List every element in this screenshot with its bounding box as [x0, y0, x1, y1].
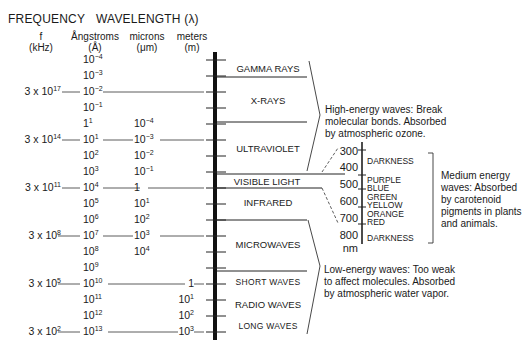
meter-value: 1 [188, 277, 194, 289]
band-x-rays: X-RAYS [228, 95, 308, 106]
micron-value: 10−4 [134, 117, 154, 129]
band-short-waves: SHORT WAVES [228, 277, 308, 287]
meter-unit: (m) [172, 42, 212, 53]
color-red: RED [367, 218, 385, 227]
frequency-value: 3 x 105 [28, 277, 61, 289]
band-radio-waves: RADIO WAVES [228, 299, 308, 310]
frequency-value: 3 x 102 [28, 325, 61, 337]
note-low-energy: Low-energy waves: Too weak to affect mol… [324, 264, 455, 300]
nm-tick-500: 500 [334, 178, 358, 190]
nm-tick-400: 400 [334, 161, 358, 173]
angstrom-value: 104 [83, 181, 99, 193]
angstrom-column-header: Ångstroms (Å) [70, 31, 120, 53]
frequency-value: 3 x 108 [28, 229, 61, 241]
angstrom-value: 109 [83, 261, 99, 273]
note-high-energy: High-energy waves: Break molecular bonds… [325, 104, 446, 140]
angstrom-value: 1010 [83, 277, 102, 289]
nm-unit: nm [334, 242, 358, 254]
angstrom-value: 106 [83, 213, 99, 225]
micron-value: 10−1 [134, 165, 154, 177]
color-darkness-bottom: DARKNESS [367, 234, 414, 243]
frequency-value: 3 x 1017 [25, 85, 61, 97]
angstrom-value: 103 [83, 165, 99, 177]
micron-value: 1 [134, 181, 140, 193]
freq-symbol: f [26, 31, 56, 42]
medium-energy-bracket [428, 153, 433, 243]
micron-label: microns [124, 31, 170, 42]
angstrom-value: 1013 [83, 325, 102, 337]
high-energy-bracket [307, 61, 320, 171]
band-visible-light: VISIBLE LIGHT [222, 176, 312, 187]
micron-value: 102 [134, 213, 150, 225]
frequency-value: 3 x 1011 [25, 181, 61, 193]
angstrom-value: 11 [83, 117, 93, 129]
band-microwaves: MICROWAVES [228, 239, 308, 250]
nm-tick-300: 300 [334, 145, 358, 157]
low-energy-bracket [307, 220, 320, 334]
angstrom-value: 10−3 [83, 69, 103, 81]
band-infrared: INFRARED [228, 197, 308, 208]
frequency-value: 3 x 1014 [25, 133, 61, 145]
angstrom-value: 1011 [83, 293, 102, 305]
micron-column-header: microns (μm) [124, 31, 170, 53]
micron-value: 10−2 [134, 149, 154, 161]
micron-value: 103 [134, 229, 150, 241]
meter-column-header: meters (m) [172, 31, 212, 53]
meter-value: 102 [178, 309, 194, 321]
micron-value: 104 [134, 245, 150, 257]
note-medium-energy: Medium energy waves: Absorbed by caroten… [441, 170, 522, 230]
band-ultraviolet: ULTRAVIOLET [228, 143, 308, 154]
angstrom-value: 108 [83, 245, 99, 257]
angstrom-value: 102 [83, 149, 99, 161]
meter-value: 101 [178, 293, 194, 305]
meter-value: 103 [178, 325, 194, 337]
angstrom-value: 105 [83, 197, 99, 209]
freq-column-header: f (kHz) [26, 31, 56, 53]
nm-tick-600: 600 [334, 195, 358, 207]
angstrom-value: 107 [83, 229, 99, 241]
band-long-waves: LONG WAVES [228, 321, 308, 331]
angstrom-label: Ångstroms [70, 31, 120, 42]
freq-unit: (kHz) [26, 42, 56, 53]
angstrom-value: 1012 [83, 309, 102, 321]
band-gamma-rays: GAMMA RAYS [228, 63, 308, 74]
nm-tick-700: 700 [334, 212, 358, 224]
angstrom-value: 101 [83, 133, 99, 145]
micron-value: 101 [134, 197, 150, 209]
angstrom-value: 10−2 [83, 85, 103, 97]
angstrom-value: 10−4 [83, 53, 103, 65]
meter-label: meters [172, 31, 212, 42]
micron-unit: (μm) [124, 42, 170, 53]
color-darkness-top: DARKNESS [367, 157, 414, 166]
angstrom-unit: (Å) [70, 42, 120, 53]
wavelength-header: WAVELENGTH (λ) [96, 12, 199, 26]
angstrom-value: 10−1 [83, 101, 103, 113]
micron-value: 10−3 [134, 133, 154, 145]
nm-tick-800: 800 [334, 229, 358, 241]
frequency-header: FREQUENCY [8, 12, 85, 26]
